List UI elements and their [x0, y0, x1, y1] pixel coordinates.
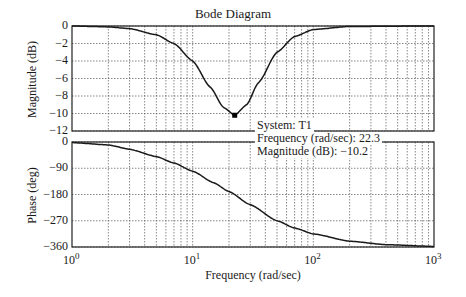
phase-tick: −360: [28, 239, 68, 254]
frequency-tick: 101: [184, 251, 201, 268]
phase-tick: −90: [28, 160, 68, 175]
phase-tick: 0: [28, 134, 68, 149]
magnitude-tick: −6: [28, 71, 68, 86]
magnitude-tick: −8: [28, 88, 68, 103]
frequency-tick: 100: [63, 251, 80, 268]
frequency-axis-label: Frequency (rad/sec): [72, 268, 434, 283]
datatip-magnitude: Magnitude (dB): −10.2: [255, 145, 370, 158]
magnitude-tick: −2: [28, 36, 68, 51]
magnitude-tick: −10: [28, 106, 68, 121]
phase-tick: −270: [28, 213, 68, 228]
frequency-tick: 103: [425, 251, 442, 268]
magnitude-tick: −4: [28, 53, 68, 68]
frequency-tick: 102: [304, 251, 321, 268]
magnitude-tick: 0: [28, 18, 68, 33]
phase-tick: −180: [28, 187, 68, 202]
